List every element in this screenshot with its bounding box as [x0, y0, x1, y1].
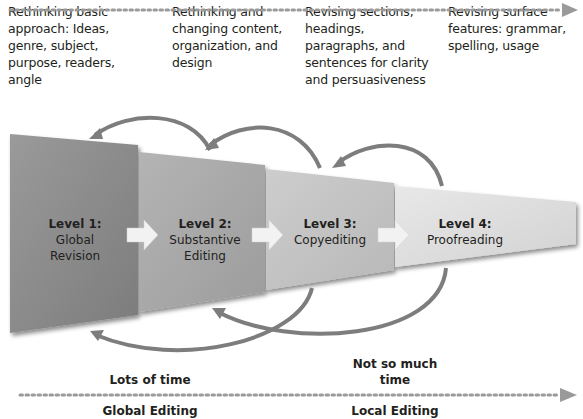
time-text: time	[340, 372, 450, 388]
level-name: Proofreading	[405, 232, 525, 248]
level-3-label: Level 3: Copyediting	[275, 216, 385, 248]
level-2-label: Level 2: Substantive Editing	[150, 216, 260, 264]
time-text: Lots of time	[109, 373, 190, 387]
local-editing-label: Local Editing	[320, 403, 470, 419]
level-name: Editing	[150, 248, 260, 264]
level-1-label: Level 1: Global Revision	[20, 216, 130, 264]
top-axis-arrowhead-icon	[562, 3, 578, 17]
level-name: Substantive	[150, 232, 260, 248]
level-title: Level 1:	[48, 217, 101, 231]
time-right-label: Not so much time	[340, 356, 450, 388]
level-name: Revision	[20, 248, 130, 264]
global-editing-label: Global Editing	[75, 403, 225, 419]
axis-text: Local Editing	[351, 404, 438, 418]
level-title: Level 4:	[438, 217, 491, 231]
level-4-label: Level 4: Proofreading	[405, 216, 525, 248]
time-text: Not so much	[340, 356, 450, 372]
level-name: Global	[20, 232, 130, 248]
level-title: Level 3:	[303, 217, 356, 231]
revision-diagram	[0, 0, 583, 419]
level-name: Copyediting	[275, 232, 385, 248]
level-title: Level 2:	[178, 217, 231, 231]
axis-text: Global Editing	[102, 404, 197, 418]
time-left-label: Lots of time	[90, 372, 210, 388]
bottom-axis-arrowhead-icon	[560, 388, 577, 402]
